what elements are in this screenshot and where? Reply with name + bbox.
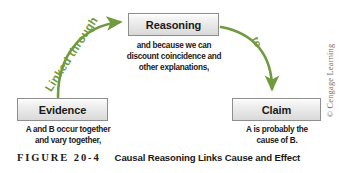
figure-title: Causal Reasoning Links Cause and Effect bbox=[115, 152, 301, 163]
copyright-notice: © Cengage Learning bbox=[326, 43, 335, 119]
node-box-reasoning: Reasoning bbox=[128, 13, 219, 36]
node-label-reasoning: Reasoning bbox=[146, 19, 201, 31]
evidence-description-line-1: A and B occur together bbox=[0, 124, 139, 135]
node-box-evidence: Evidence bbox=[17, 98, 108, 121]
connector-label-linked-through: Linked through bbox=[43, 14, 100, 93]
figure-caption: FIGURE 20-4 Causal Reasoning Links Cause… bbox=[17, 152, 300, 163]
causal-reasoning-figure: Linked through to Reasoning and because … bbox=[0, 0, 346, 173]
reasoning-description-line-1: and because we can bbox=[104, 40, 244, 51]
claim-description-line-2: cause of B. bbox=[224, 135, 330, 146]
claim-description-line-1: A is probably the bbox=[224, 124, 330, 135]
node-description-evidence: A and B occur together and vary together… bbox=[0, 124, 139, 146]
figure-number: FIGURE 20-4 bbox=[17, 152, 101, 163]
evidence-description-line-2: and vary together, bbox=[0, 135, 139, 146]
node-label-evidence: Evidence bbox=[39, 104, 87, 116]
node-label-claim: Claim bbox=[262, 104, 291, 116]
connector-label-to: to bbox=[249, 35, 264, 50]
reasoning-description-line-3: other explanations, bbox=[104, 62, 244, 73]
node-description-reasoning: and because we can discount coincidence … bbox=[104, 40, 244, 74]
node-description-claim: A is probably the cause of B. bbox=[224, 124, 330, 146]
node-box-claim: Claim bbox=[232, 98, 321, 121]
reasoning-description-line-2: discount coincidence and bbox=[104, 51, 244, 62]
